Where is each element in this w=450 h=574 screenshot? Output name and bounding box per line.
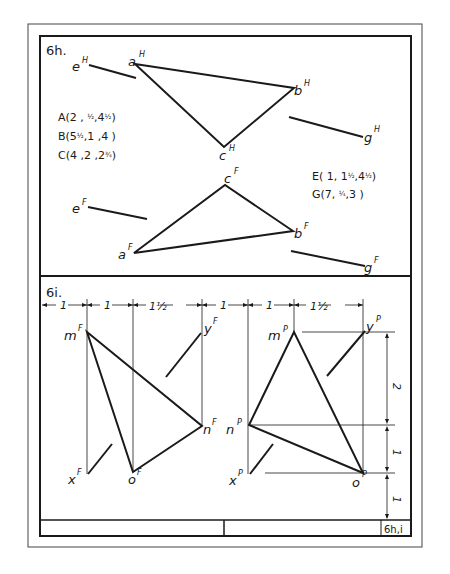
svg-text:H: H [139, 50, 145, 59]
coord-e: E( 1, 1½,4½) [312, 170, 376, 183]
horizontal-dimension-line [42, 299, 363, 474]
svg-text:H: H [229, 144, 235, 153]
label-m-f: m [64, 328, 77, 343]
svg-text:P: P [362, 470, 367, 479]
vdim-1b: 1 [390, 496, 403, 503]
dim-1b: 1 [104, 299, 111, 312]
svg-text:F: F [234, 167, 239, 176]
svg-text:F: F [77, 468, 82, 477]
coord-c: C(4 ,2 ,2¾) [58, 149, 116, 162]
label-a-f: a [118, 247, 126, 262]
label-y-p: y [365, 319, 374, 334]
profile-view-6i [249, 331, 365, 474]
label-e-h: e [72, 59, 80, 74]
svg-text:H: H [82, 56, 88, 65]
coord-a: A(2 , ½,4½) [58, 111, 116, 124]
problem-6i-label: 6i. [46, 285, 62, 300]
dim-1-5b: 1½ [310, 300, 328, 313]
label-x-f: x [67, 472, 76, 487]
svg-text:F: F [212, 418, 217, 427]
svg-text:F: F [137, 468, 142, 477]
label-m-p: m [268, 328, 281, 343]
sheet-number: 6h,i [384, 524, 403, 535]
svg-text:H: H [304, 79, 310, 88]
label-g-f: g [364, 260, 372, 275]
svg-text:P: P [238, 469, 243, 478]
horizontal-view [89, 64, 363, 147]
svg-text:P: P [237, 418, 242, 427]
drawing-sheet: 6h. e H a H b H c H g H A(2 , ½,4½) B(5½… [0, 0, 450, 574]
svg-text:F: F [128, 243, 133, 252]
label-y-f: y [203, 321, 212, 336]
label-c-h: c [219, 148, 226, 163]
label-o-p: o [352, 475, 360, 490]
problem-6h-label: 6h. [46, 43, 67, 58]
svg-text:F: F [82, 198, 87, 207]
line-x-f [88, 444, 112, 474]
label-g-h: g [364, 130, 372, 145]
problem-6i: 6i. [42, 285, 403, 519]
svg-text:P: P [376, 315, 381, 324]
line-g-f [291, 251, 365, 266]
line-e-f [88, 207, 147, 219]
label-o-f: o [128, 472, 136, 487]
vdim-2: 2 [390, 383, 403, 390]
dim-1d: 1 [266, 299, 273, 312]
label-b-f: b [294, 226, 302, 241]
dim-1-5a: 1½ [149, 300, 167, 313]
svg-text:H: H [374, 125, 380, 134]
svg-text:F: F [78, 324, 83, 333]
coordinate-list: A(2 , ½,4½) B(5½,1 ,4 ) C(4 ,2 ,2¾) E( 1… [58, 111, 376, 201]
label-n-p: n [226, 422, 234, 437]
line-x-p [250, 444, 273, 474]
problem-6h: 6h. e H a H b H c H g H A(2 , ½,4½) B(5½… [46, 43, 380, 275]
line-y-f [166, 333, 201, 377]
vdim-1a: 1 [390, 449, 403, 456]
dim-1a: 1 [60, 299, 67, 312]
line-g-h [289, 117, 363, 137]
label-e-f: e [72, 201, 80, 216]
dim-1c: 1 [220, 299, 227, 312]
svg-text:P: P [283, 325, 288, 334]
triangle-abc-h [135, 64, 294, 147]
frontal-view-6i [87, 332, 202, 474]
svg-text:F: F [213, 317, 218, 326]
label-n-f: n [203, 422, 211, 437]
coord-g: G(7, ¼,3 ) [312, 188, 364, 201]
line-y-p [327, 331, 365, 376]
label-x-p: x [228, 473, 237, 488]
label-c-f: c [224, 171, 231, 186]
triangle-abc-f [134, 185, 293, 253]
title-block [40, 520, 411, 536]
svg-text:F: F [374, 256, 379, 265]
label-b-h: b [294, 83, 302, 98]
label-a-h: a [128, 54, 136, 69]
svg-text:F: F [304, 222, 309, 231]
coord-b: B(5½,1 ,4 ) [58, 130, 116, 143]
profile-view-construction [249, 332, 395, 518]
